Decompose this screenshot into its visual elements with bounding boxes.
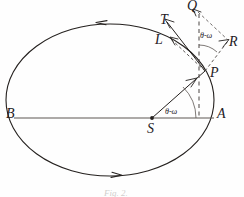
orbit-direction-arrow-bottom: [111, 172, 122, 177]
angle-arc-at-point: [199, 45, 217, 52]
orbit-ellipse: [6, 24, 214, 176]
angle-arc-at-focus: [183, 87, 196, 118]
label-point-r: R: [229, 35, 238, 49]
label-angle-at-focus: θ-ω: [165, 108, 177, 116]
arrowhead-l: [170, 37, 178, 45]
label-point-t: T: [160, 13, 168, 27]
orbit-diagram: B A S P Q R T L θ-ω θ-ω Fig. 2.: [0, 0, 244, 197]
orbit-figure-canvas: [0, 0, 244, 197]
label-angle-at-point: θ-ω: [200, 32, 212, 40]
arrowhead-r: [219, 40, 229, 48]
label-point-l: L: [155, 33, 163, 47]
label-point-a: A: [217, 107, 226, 121]
figure-caption: Fig. 2.: [104, 189, 128, 197]
label-point-q: Q: [187, 0, 197, 13]
label-point-s: S: [147, 122, 154, 136]
label-point-p: P: [210, 66, 219, 80]
label-point-b: B: [6, 107, 15, 121]
